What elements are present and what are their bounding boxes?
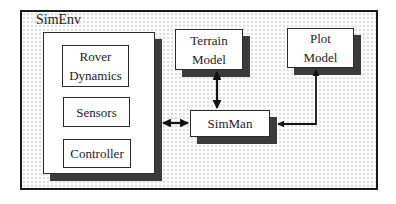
- connection-arrows: [0, 0, 396, 204]
- plot-simman-arrow: [278, 70, 316, 124]
